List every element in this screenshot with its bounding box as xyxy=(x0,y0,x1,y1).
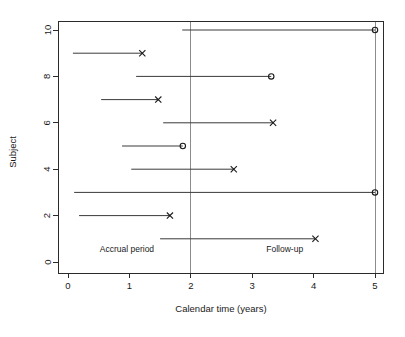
y-tick-label-2: 2 xyxy=(42,213,53,218)
x-axis-ticks xyxy=(68,273,375,278)
y-tick-label-0: 0 xyxy=(42,259,53,264)
chart-figure: 012345 0246810 Accrual periodFollow-up C… xyxy=(0,0,405,337)
plot-frame-rect xyxy=(58,21,383,273)
y-axis-ticks xyxy=(53,30,58,262)
region-annotations: Accrual periodFollow-up xyxy=(100,244,304,254)
x-tick-label-5: 5 xyxy=(372,280,377,291)
annotation-accrual-period: Accrual period xyxy=(100,244,155,254)
y-tick-label-10: 10 xyxy=(42,25,53,36)
subject-segments-group xyxy=(73,30,375,239)
y-tick-label-4: 4 xyxy=(42,167,53,172)
x-tick-label-1: 1 xyxy=(127,280,132,291)
annotation-follow-up: Follow-up xyxy=(266,244,303,254)
y-tick-label-8: 8 xyxy=(42,74,53,79)
subject-markers-group xyxy=(139,27,378,242)
plot-frame xyxy=(58,21,383,273)
y-tick-label-6: 6 xyxy=(42,120,53,125)
x-tick-label-4: 4 xyxy=(311,280,316,291)
x-axis-tick-labels: 012345 xyxy=(65,280,377,291)
x-tick-label-2: 2 xyxy=(188,280,193,291)
x-tick-label-0: 0 xyxy=(65,280,70,291)
x-axis-title: Calendar time (years) xyxy=(175,303,266,314)
x-tick-label-3: 3 xyxy=(250,280,255,291)
y-axis-tick-labels: 0246810 xyxy=(42,25,53,265)
subject-accrual-followup-plot: 012345 0246810 Accrual periodFollow-up C… xyxy=(0,0,405,337)
y-axis-title: Subject xyxy=(7,136,18,168)
reference-lines-group xyxy=(191,21,375,273)
